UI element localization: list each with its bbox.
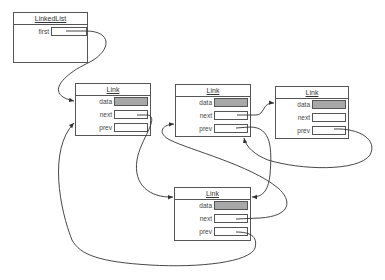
linked-list-node: LinkedList first bbox=[13, 12, 88, 63]
first-pointer-field bbox=[51, 27, 87, 36]
link-node-2: Link data next prev bbox=[175, 84, 251, 137]
next-pointer-field bbox=[312, 113, 346, 122]
field-row-data: data bbox=[276, 100, 348, 110]
field-label-prev: prev bbox=[99, 123, 112, 133]
prev-pointer-field bbox=[114, 123, 148, 132]
field-row-prev: prev bbox=[76, 123, 150, 133]
field-row-first: first bbox=[14, 27, 87, 37]
field-row-next: next bbox=[175, 214, 250, 224]
field-label-first: first bbox=[39, 27, 49, 37]
prev-pointer-field bbox=[214, 227, 248, 236]
link-title: Link bbox=[175, 188, 250, 200]
link-title: Link bbox=[76, 84, 150, 96]
link-node-4: Link data next prev bbox=[174, 187, 251, 241]
link-title: Link bbox=[176, 85, 250, 97]
next-pointer-field bbox=[214, 111, 248, 120]
data-field bbox=[214, 98, 248, 107]
field-row-next: next bbox=[176, 111, 250, 121]
field-label-prev: prev bbox=[199, 227, 212, 237]
field-row-next: next bbox=[76, 110, 150, 120]
next-pointer-field bbox=[214, 214, 248, 223]
prev-pointer-field bbox=[214, 124, 248, 133]
field-row-prev: prev bbox=[276, 126, 348, 136]
field-row-data: data bbox=[175, 201, 250, 211]
field-label-next: next bbox=[200, 214, 212, 224]
prev-pointer-field bbox=[312, 126, 346, 135]
field-label-next: next bbox=[200, 111, 212, 121]
field-label-next: next bbox=[100, 110, 112, 120]
field-row-data: data bbox=[76, 97, 150, 107]
link-title: Link bbox=[276, 87, 348, 99]
data-field bbox=[114, 97, 148, 106]
field-label-data: data bbox=[99, 97, 112, 107]
field-row-prev: prev bbox=[175, 227, 250, 237]
data-field bbox=[312, 100, 346, 109]
next-pointer-field bbox=[114, 110, 148, 119]
field-label-data: data bbox=[199, 98, 212, 108]
field-label-next: next bbox=[298, 113, 310, 123]
field-row-data: data bbox=[176, 98, 250, 108]
field-label-data: data bbox=[297, 100, 310, 110]
link-node-1: Link data next prev bbox=[75, 83, 151, 136]
field-label-prev: prev bbox=[297, 126, 310, 136]
data-field bbox=[214, 201, 248, 210]
field-label-prev: prev bbox=[199, 124, 212, 134]
field-label-data: data bbox=[199, 201, 212, 211]
linked-list-title: LinkedList bbox=[14, 13, 87, 25]
field-row-prev: prev bbox=[176, 124, 250, 134]
field-row-next: next bbox=[276, 113, 348, 123]
link-node-3: Link data next prev bbox=[275, 86, 349, 139]
